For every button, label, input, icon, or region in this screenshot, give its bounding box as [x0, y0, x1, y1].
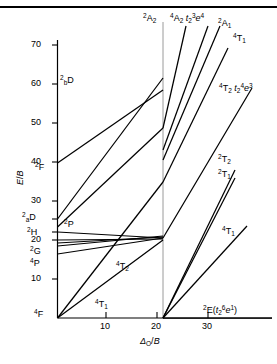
- curve-4T1-low: [58, 182, 164, 318]
- x-axis-title: ΔO/B: [140, 337, 160, 346]
- y-tick-70: 70: [31, 40, 41, 49]
- state-label-4T1-low: 4T1: [95, 300, 108, 309]
- x-axis-ticks: [106, 312, 208, 318]
- y-tick-60: 60: [31, 79, 41, 88]
- state-label-4T1-right: 4T1: [222, 227, 235, 236]
- x-tick-20: 20: [151, 322, 161, 331]
- y-tick-50: 50: [31, 118, 41, 127]
- term-label-2aD: 2aD: [22, 213, 36, 222]
- curve-2A1-top: [163, 26, 220, 160]
- state-label-2T2: 2T2: [218, 155, 231, 164]
- tanabe-sugano-diagram: 70 60 50 40 30 20 10 10 20 30 E/B ΔO/B 2…: [0, 0, 277, 364]
- curve-2P-rise: [58, 128, 164, 227]
- state-label-2E-ground: 2E(t26e1): [203, 306, 237, 315]
- term-label-4F: 4F: [34, 310, 43, 319]
- curve-2F-rise: [58, 90, 164, 163]
- state-label-2A1: 2A1: [218, 19, 231, 28]
- curve-2aD-rise: [58, 78, 164, 219]
- state-label-2T1: 2T1: [218, 170, 231, 179]
- curve-4T2-t24e3: [163, 88, 252, 238]
- state-label-4T2-mid: 4T2: [116, 262, 129, 271]
- term-label-2H: 2H: [27, 228, 37, 237]
- curve-2T1-high: [163, 178, 235, 318]
- term-label-4P: 4P: [30, 259, 40, 268]
- curve-2H-to-bundle: [58, 232, 164, 238]
- state-label-4T2-t24e3: 4T2 t24e3: [219, 84, 253, 93]
- energy-level-curves-lowfield: [58, 78, 164, 318]
- state-label-4A2-t23e4: 4A2 t23e4: [170, 14, 204, 23]
- curve-4A2-t23e4: [163, 26, 208, 150]
- y-tick-10: 10: [31, 274, 41, 283]
- x-tick-30: 30: [202, 322, 212, 331]
- term-label-2G: 2G: [30, 247, 41, 256]
- term-label-2P: 2P: [64, 220, 74, 229]
- y-tick-30: 30: [31, 196, 41, 205]
- state-label-4T1-top: 4T1: [233, 34, 246, 43]
- x-tick-10: 10: [100, 322, 110, 331]
- state-label-2A2: 2A2: [143, 14, 156, 23]
- term-label-2bD: 2bD: [60, 76, 74, 85]
- y-axis-title: E/B: [16, 170, 25, 185]
- y-axis-ticks: [52, 45, 58, 279]
- term-label-2F: 2F: [35, 163, 44, 172]
- free-ion-term-ticks: [52, 219, 58, 232]
